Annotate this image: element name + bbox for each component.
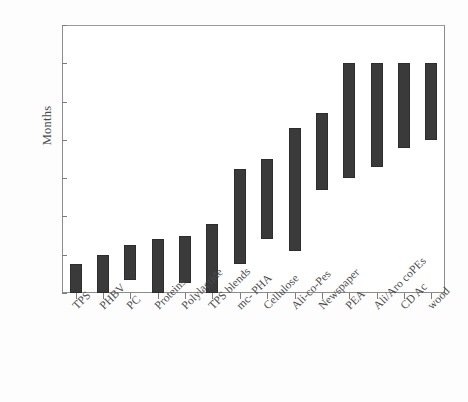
y-tick-mark [62, 255, 67, 256]
bar [343, 63, 355, 178]
y-tick-mark [62, 216, 67, 217]
bar [124, 245, 136, 279]
bar [234, 169, 246, 265]
y-tick-mark [62, 102, 67, 103]
bar [261, 159, 273, 239]
y-tick-mark [62, 178, 67, 179]
bar [398, 63, 410, 147]
bar [97, 255, 109, 293]
y-tick-mark [62, 25, 67, 26]
y-axis-title: Months [40, 81, 55, 171]
bar [371, 63, 383, 166]
bar [152, 239, 164, 293]
bar [289, 128, 301, 251]
y-tick-mark [62, 140, 67, 141]
chart-figure: Months 01234567 TPSPHBVPCProteinsPolylac… [0, 0, 468, 402]
plot-area [62, 25, 445, 293]
bar [425, 63, 437, 140]
y-tick-mark [62, 63, 67, 64]
bar [70, 264, 82, 293]
y-tick-mark [62, 293, 67, 294]
x-axis-label: PC [124, 293, 143, 312]
bar [316, 113, 328, 190]
